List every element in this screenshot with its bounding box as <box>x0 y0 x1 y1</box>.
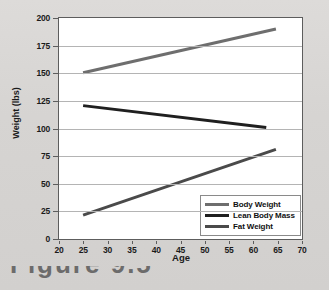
y-tick-label: 0 <box>45 234 50 244</box>
cropped-caption: Figure 9.5 <box>0 266 329 290</box>
gridline <box>59 156 302 157</box>
legend-color-swatch <box>205 203 229 206</box>
legend-label: Body Weight <box>233 200 281 209</box>
chart-legend: Body WeightLean Body MassFat Weight <box>200 195 301 236</box>
y-tick-label: 25 <box>41 206 50 216</box>
legend-label: Fat Weight <box>233 222 273 231</box>
gridline <box>59 129 302 130</box>
y-tick-label: 75 <box>41 151 50 161</box>
y-tick-label: 200 <box>36 13 50 23</box>
plot-area: Body WeightLean Body MassFat Weight <box>58 17 303 240</box>
figure-line-chart: Weight (lbs) 0255075100125150175200 Body… <box>0 0 329 266</box>
y-axis-ticks: 0255075100125150175200 <box>0 17 58 242</box>
x-tick-mark <box>59 241 60 244</box>
y-tick-label: 125 <box>36 96 50 106</box>
x-tick-mark <box>181 241 182 244</box>
x-tick-mark <box>132 241 133 244</box>
gridline <box>59 46 302 47</box>
y-tick-label: 175 <box>36 41 50 51</box>
y-tick-label: 150 <box>36 68 50 78</box>
x-tick-mark <box>253 241 254 244</box>
caption-text: Figure 9.5 <box>10 266 153 280</box>
x-tick-mark <box>278 241 279 244</box>
legend-item: Fat Weight <box>203 221 297 232</box>
x-tick-mark <box>108 241 109 244</box>
x-tick-mark <box>156 241 157 244</box>
x-tick-mark <box>302 241 303 244</box>
x-tick-mark <box>205 241 206 244</box>
y-tick-label: 50 <box>41 179 50 189</box>
gridline <box>59 211 302 212</box>
gridline <box>59 184 302 185</box>
legend-color-swatch <box>205 225 229 228</box>
y-tick-label: 100 <box>36 124 50 134</box>
series-line <box>83 106 266 128</box>
legend-color-swatch <box>205 214 229 217</box>
x-tick-mark <box>83 241 84 244</box>
legend-item: Body Weight <box>203 199 297 210</box>
series-line <box>83 29 276 73</box>
gridline <box>59 101 302 102</box>
gridline <box>59 73 302 74</box>
x-axis-label: Age <box>58 252 304 263</box>
x-tick-mark <box>229 241 230 244</box>
